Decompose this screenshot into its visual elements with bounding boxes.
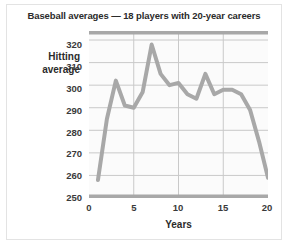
y-tick-label-280: 280 (52, 127, 82, 138)
figure: Baseball averages — 18 players with 20-y… (0, 0, 288, 248)
x-tick-label-20: 20 (255, 202, 279, 213)
y-tick-label-320: 320 (52, 39, 82, 50)
y-tick-label-300: 300 (52, 83, 82, 94)
x-tick-label-0: 0 (77, 202, 101, 213)
x-axis-label: Years (89, 219, 268, 230)
y-tick-label-290: 290 (52, 105, 82, 116)
y-tick-label-260: 260 (52, 170, 82, 181)
x-tick-label-15: 15 (211, 202, 235, 213)
x-tick-label-5: 5 (122, 202, 146, 213)
y-tick-label-270: 270 (52, 148, 82, 159)
chart-title: Baseball averages — 18 players with 20-y… (0, 10, 288, 21)
plot-area (89, 31, 268, 198)
x-tick-label-10: 10 (166, 202, 190, 213)
plot-svg (89, 31, 268, 198)
y-tick-label-310: 310 (52, 61, 82, 72)
